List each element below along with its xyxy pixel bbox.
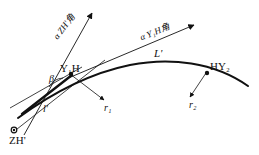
station-marker-hy2 bbox=[205, 71, 209, 75]
label-offset-r1: r₁ bbox=[104, 103, 111, 113]
label-point-zh: ZH' bbox=[9, 135, 26, 146]
azimuth-ray-y1h bbox=[66, 25, 194, 79]
tangent-line-from-zh bbox=[12, 60, 105, 133]
offset-ray-r2 bbox=[190, 73, 206, 97]
station-marker-zh-dot bbox=[13, 129, 15, 131]
label-point-hy2: HY₂ bbox=[210, 61, 230, 72]
diagram-canvas bbox=[0, 0, 259, 155]
label-offset-r2: r₂ bbox=[189, 100, 196, 110]
label-angle-beta: β bbox=[49, 74, 54, 84]
survey-curve-diagram: ZH' Y₁H HY₂ β L' l' r₁ r₂ α ZH'角 α Y₁H角 bbox=[0, 0, 259, 155]
label-point-y1h: Y₁H bbox=[60, 63, 80, 74]
label-chord-small: l' bbox=[43, 104, 48, 114]
label-chord-large: L' bbox=[154, 48, 162, 59]
